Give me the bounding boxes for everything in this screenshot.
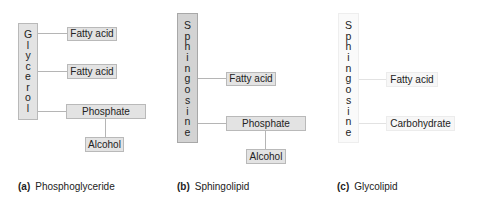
backbone-letter: i — [186, 106, 188, 116]
backbone-letter: l — [27, 40, 29, 50]
connector-line — [38, 71, 67, 72]
sphingosine-backbone: S p h i n g o s i n e — [338, 13, 359, 143]
backbone-letter: s — [185, 95, 190, 105]
caption-text: Sphingolipid — [195, 181, 250, 192]
backbone-letter: s — [346, 95, 351, 105]
connector-line — [38, 111, 66, 112]
connector-line — [38, 33, 67, 34]
caption-c: (c)Glycolipid — [337, 181, 398, 192]
backbone-letter: e — [185, 127, 191, 137]
alcohol-box: Alcohol — [246, 149, 286, 164]
backbone-letter: i — [186, 52, 188, 62]
backbone-letter: p — [185, 31, 191, 41]
backbone-letter: n — [346, 63, 352, 73]
alcohol-box: Alcohol — [85, 137, 124, 152]
backbone-letter: o — [25, 92, 31, 102]
backbone-letter: i — [347, 52, 349, 62]
fatty-acid-box: Fatty acid — [226, 72, 276, 86]
caption-text: Glycolipid — [354, 181, 397, 192]
fatty-acid-box-2: Fatty acid — [67, 64, 117, 79]
backbone-letter: g — [346, 73, 352, 83]
backbone-letter: n — [346, 116, 352, 126]
caption-a: (a)Phosphoglyceride — [18, 181, 115, 192]
backbone-letter: h — [185, 41, 191, 51]
connector-line — [265, 131, 266, 149]
backbone-letter: n — [185, 63, 191, 73]
connector-line — [198, 78, 226, 79]
connector-line — [359, 123, 386, 124]
backbone-letter: l — [27, 103, 29, 113]
caption-letter: (a) — [18, 181, 30, 192]
connector-line — [198, 123, 226, 124]
fatty-acid-box: Fatty acid — [386, 72, 438, 87]
caption-letter: (b) — [177, 181, 190, 192]
backbone-letter: o — [346, 84, 352, 94]
carbohydrate-box: Carbohydrate — [386, 116, 455, 131]
backbone-letter: n — [185, 116, 191, 126]
backbone-letter: o — [185, 84, 191, 94]
backbone-letter: i — [347, 106, 349, 116]
caption-text: Phosphoglyceride — [35, 181, 115, 192]
backbone-letter: g — [185, 73, 191, 83]
backbone-letter: r — [26, 82, 30, 92]
caption-b: (b)Sphingolipid — [177, 181, 249, 192]
fatty-acid-box-1: Fatty acid — [67, 27, 117, 41]
phosphate-box: Phosphate — [226, 116, 306, 131]
backbone-letter: y — [25, 50, 30, 60]
backbone-letter: S — [345, 20, 352, 30]
backbone-letter: e — [25, 71, 31, 81]
glycerol-backbone: G l y c e r o l — [18, 23, 38, 120]
backbone-letter: c — [25, 61, 30, 71]
backbone-letter: h — [346, 41, 352, 51]
backbone-letter: G — [24, 29, 32, 39]
sphingosine-backbone: S p h i n g o s i n e — [177, 13, 198, 143]
caption-letter: (c) — [337, 181, 349, 192]
connector-line — [105, 119, 106, 137]
connector-line — [359, 79, 386, 80]
backbone-letter: e — [346, 127, 352, 137]
backbone-letter: S — [184, 20, 191, 30]
backbone-letter: p — [346, 31, 352, 41]
phosphate-box: Phosphate — [66, 104, 146, 119]
